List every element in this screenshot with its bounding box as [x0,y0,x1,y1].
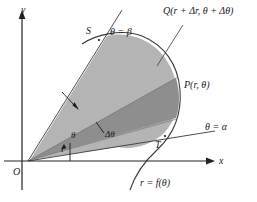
point-q-label: Q(r + Δr, θ + Δθ) [163,6,233,16]
point-t-label: T [155,140,161,150]
x-axis-label: x [219,156,223,166]
ray-beta-label: θ = β [110,27,132,37]
point-s-marker [98,39,100,41]
curve-equation-label: r = f(θ) [140,178,170,188]
point-s-label: S [86,26,91,36]
ray-alpha-label: θ = α [205,122,227,132]
x-axis-arrowhead [206,158,215,165]
point-t-marker [164,135,166,137]
angle-delta-theta-label: Δθ [105,130,115,139]
polar-region-figure: y x O S T P(r, θ) Q(r + Δr, θ + Δθ) θ = … [0,0,257,202]
y-axis-label: y [21,5,25,15]
origin-label: O [13,167,20,177]
angle-theta-label: θ [71,131,75,140]
point-p-label: P(r, θ) [184,80,209,90]
